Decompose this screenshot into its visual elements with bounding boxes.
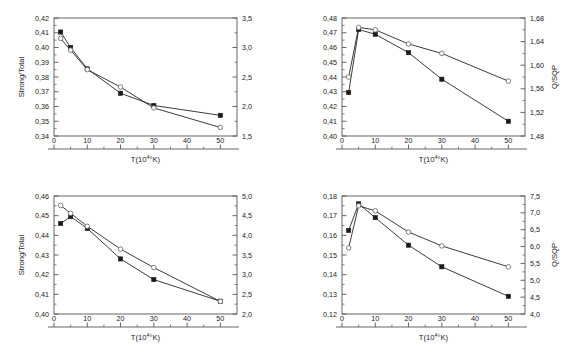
data-point-filled-square (347, 228, 351, 232)
figure-root: 0,340,350,360,370,380,390,400,410,421,52… (0, 0, 575, 356)
ytick-label-left: 0,18 (323, 192, 337, 201)
ytick-label-left: 0,41 (35, 28, 49, 37)
x-axis-title: T(104°K) (419, 332, 449, 342)
y-axis-title-left: Strong/Total (17, 234, 26, 275)
ytick-label-right: 1,60 (530, 61, 544, 70)
ytick-label-left: 0,15 (323, 251, 337, 260)
xtick-label: 0 (52, 136, 56, 145)
plot-top-right: 0,400,410,420,430,440,450,460,470,481,48… (288, 0, 575, 178)
data-point-open-circle (406, 230, 411, 235)
ytick-label-right: 1,52 (530, 108, 544, 117)
ytick-label-right: 1,5 (242, 132, 252, 141)
data-point-open-circle (506, 79, 511, 84)
data-point-open-circle (506, 265, 511, 270)
data-point-filled-square (373, 216, 377, 220)
data-point-filled-square (218, 113, 222, 117)
data-point-open-circle (218, 125, 223, 130)
data-point-open-circle (356, 203, 361, 208)
ytick-label-left: 0,34 (35, 132, 49, 141)
ytick-label-right: 1,48 (530, 132, 544, 141)
xtick-label: 10 (83, 136, 91, 145)
ytick-label-left: 0,46 (323, 43, 337, 52)
data-point-filled-square (347, 90, 351, 94)
ytick-label-right: 5,0 (530, 276, 540, 285)
xtick-label: 30 (150, 314, 158, 323)
data-point-open-circle (152, 265, 157, 270)
ytick-label-left: 0,17 (323, 211, 337, 220)
xtick-label: 10 (371, 136, 379, 145)
xtick-label: 40 (183, 314, 191, 323)
ytick-label-right: 4,5 (242, 211, 252, 220)
xtick-label: 30 (438, 136, 446, 145)
ytick-label-right: 5,0 (242, 192, 252, 201)
xtick-label: 20 (405, 314, 413, 323)
ytick-label-left: 0,40 (35, 310, 49, 319)
ytick-label-left: 0,40 (35, 43, 49, 52)
xtick-label: 0 (340, 314, 344, 323)
xtick-label: 20 (117, 314, 125, 323)
y-axis-title-right: Q/SQP (550, 243, 559, 267)
series-line-open-circle (349, 27, 509, 81)
panel-top-right: 0,400,410,420,430,440,450,460,470,481,48… (288, 0, 575, 178)
xtick-label: 50 (504, 136, 512, 145)
xtick-label: 50 (504, 314, 512, 323)
plot-frame-top-left (54, 18, 237, 136)
panel-bottom-left: 0,400,410,420,430,440,450,462,02,53,03,5… (0, 178, 287, 356)
ytick-label-right: 4,0 (530, 310, 540, 319)
xtick-label: 20 (117, 136, 125, 145)
ytick-label-left: 0,12 (323, 310, 337, 319)
data-point-filled-square (406, 51, 410, 55)
series-line-open-circle (61, 38, 221, 127)
ytick-label-right: 2,5 (242, 290, 252, 299)
data-point-open-circle (373, 28, 378, 33)
plot-bottom-right: 0,120,130,140,150,160,170,184,04,55,05,5… (288, 178, 575, 356)
xtick-label: 40 (471, 136, 479, 145)
ytick-label-right: 4,0 (242, 231, 252, 240)
plot-frame-bottom-right (342, 196, 525, 314)
data-point-open-circle (152, 106, 157, 111)
series-line-filled-square (61, 217, 221, 302)
data-point-open-circle (440, 244, 445, 249)
x-axis-title: T(104°K) (131, 154, 161, 164)
series-line-filled-square (349, 204, 509, 296)
ytick-label-left: 0,42 (35, 14, 49, 23)
x-axis-title: T(104°K) (131, 332, 161, 342)
xtick-label: 40 (183, 136, 191, 145)
data-point-open-circle (373, 209, 378, 214)
ytick-label-left: 0,41 (323, 117, 337, 126)
ytick-label-right: 7,5 (530, 192, 540, 201)
ytick-label-right: 2,5 (242, 73, 252, 82)
data-point-open-circle (118, 247, 123, 252)
data-point-open-circle (58, 36, 63, 41)
ytick-label-right: 5,5 (530, 259, 540, 268)
data-point-open-circle (118, 85, 123, 90)
ytick-label-left: 0,47 (323, 28, 337, 37)
ytick-label-left: 0,37 (35, 87, 49, 96)
ytick-label-left: 0,38 (35, 73, 49, 82)
ytick-label-left: 0,42 (323, 102, 337, 111)
ytick-label-left: 0,42 (35, 270, 49, 279)
ytick-label-right: 4,5 (530, 293, 540, 302)
data-point-filled-square (59, 30, 63, 34)
ytick-label-left: 0,45 (323, 58, 337, 67)
xtick-label: 0 (52, 314, 56, 323)
xtick-label: 10 (371, 314, 379, 323)
ytick-label-right: 3,0 (242, 43, 252, 52)
data-point-open-circle (346, 75, 351, 80)
ytick-label-left: 0,45 (35, 211, 49, 220)
xtick-label: 30 (150, 136, 158, 145)
data-point-filled-square (440, 77, 444, 81)
ytick-label-left: 0,43 (323, 87, 337, 96)
x-axis-title: T(104°K) (419, 154, 449, 164)
y-axis-title-left: Strong/Total (17, 56, 26, 97)
series-line-open-circle (61, 205, 221, 301)
ytick-label-left: 0,13 (323, 290, 337, 299)
ytick-label-left: 0,46 (35, 192, 49, 201)
data-point-open-circle (68, 211, 73, 216)
ytick-label-right: 6,5 (530, 225, 540, 234)
ytick-label-left: 0,44 (35, 231, 49, 240)
ytick-label-left: 0,35 (35, 117, 49, 126)
ytick-label-right: 1,64 (530, 37, 544, 46)
xtick-label: 0 (340, 136, 344, 145)
ytick-label-left: 0,40 (323, 132, 337, 141)
